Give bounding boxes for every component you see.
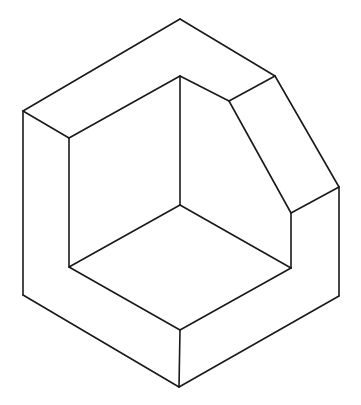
edge-line <box>69 205 180 267</box>
edge-line <box>23 111 69 138</box>
edge-line <box>229 76 275 101</box>
edge-line <box>275 76 339 187</box>
edge-line <box>180 76 229 101</box>
edge-line <box>69 76 180 138</box>
edge-line <box>291 187 339 213</box>
edge-line <box>23 19 180 111</box>
isometric-cutout-cube-figure <box>0 0 361 405</box>
edge-line <box>180 19 275 76</box>
edge-line <box>179 330 180 387</box>
figure-edges <box>23 19 339 387</box>
edge-line <box>179 296 339 387</box>
edge-line <box>69 267 180 330</box>
edge-line <box>180 268 291 330</box>
edge-line <box>23 295 179 387</box>
edge-line <box>229 101 291 213</box>
edge-line <box>180 205 291 268</box>
